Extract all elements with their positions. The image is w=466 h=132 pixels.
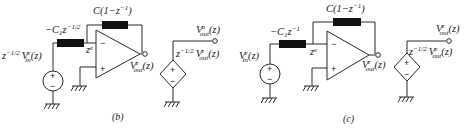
dep-minus-sign: − xyxy=(170,76,175,86)
input-branch-label: −C1z−1 xyxy=(270,25,300,39)
input-capacitor-block xyxy=(279,40,306,48)
ground-icon xyxy=(261,98,277,103)
dependent-source-label: z−1/2Veout(z) xyxy=(175,47,220,62)
opamp-minus: − xyxy=(100,38,105,48)
source-minus-sign: − xyxy=(267,74,272,84)
panel-c: + − − + + xyxy=(239,2,460,125)
opamp-plus: + xyxy=(100,64,105,74)
input-wire xyxy=(270,44,279,64)
ground-icon xyxy=(303,86,319,91)
input-source-label: z−1/2Vein(z) xyxy=(1,49,42,64)
final-output-terminal-icon xyxy=(213,39,218,44)
opamp-plus: + xyxy=(331,64,336,74)
dep-plus-sign: + xyxy=(170,65,175,75)
final-output-label: Voout(z) xyxy=(196,23,220,38)
dep-plus-sign: + xyxy=(404,58,409,68)
feedback-capacitor-block xyxy=(333,18,361,26)
final-output-label: Veout(z) xyxy=(436,22,460,37)
node-label: ze xyxy=(309,46,317,57)
dependent-source-label: z−1/2Veout(z) xyxy=(408,45,453,60)
panel-b: + − − + xyxy=(1,4,220,123)
opamp-output-label: Veout(z) xyxy=(362,58,386,73)
input-source-label: Vein(z) xyxy=(239,49,260,64)
source-plus-sign: + xyxy=(267,64,272,74)
circuit-diagram: + − − + xyxy=(0,0,466,132)
ground-icon xyxy=(71,86,87,91)
input-capacitor-block xyxy=(57,39,84,47)
feedback-wire-right xyxy=(361,22,375,54)
node-label: ze xyxy=(85,44,93,55)
opamp-output-label: Veout(z) xyxy=(130,59,154,74)
ground-icon xyxy=(164,102,180,107)
feedback-label: C(1−z−1) xyxy=(326,2,365,15)
ground-icon xyxy=(44,104,60,109)
opamp-minus: − xyxy=(331,39,336,49)
feedback-label: C(1−z−1) xyxy=(93,4,132,17)
source-minus-sign: − xyxy=(50,81,55,91)
source-plus-sign: + xyxy=(50,71,55,81)
panel-caption: (b) xyxy=(112,111,124,123)
feedback-capacitor-block xyxy=(102,21,128,29)
panel-caption: (c) xyxy=(343,113,355,125)
noninverting-wire xyxy=(80,67,96,86)
noninverting-wire xyxy=(312,68,327,86)
final-output-terminal-icon xyxy=(447,39,452,44)
dep-minus-sign: − xyxy=(404,69,409,79)
ground-icon xyxy=(398,97,414,102)
input-wire xyxy=(53,43,57,71)
input-branch-label: −C1z−1/2 xyxy=(45,23,81,37)
output-terminal-icon xyxy=(376,53,381,58)
output-terminal-icon xyxy=(143,52,148,57)
